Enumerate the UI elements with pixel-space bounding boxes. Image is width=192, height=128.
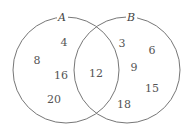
- region-intersection: 12: [89, 67, 103, 80]
- element-6: 6: [149, 44, 156, 57]
- element-16: 16: [54, 69, 68, 82]
- element-15: 15: [145, 82, 159, 95]
- element-4: 4: [61, 36, 68, 49]
- element-3: 3: [119, 37, 126, 50]
- region-a-only: 4 8 16 20: [34, 36, 69, 106]
- element-9: 9: [131, 61, 138, 74]
- set-a-label: A: [57, 11, 66, 24]
- set-b-label: B: [126, 11, 135, 24]
- element-18: 18: [117, 98, 131, 111]
- element-12: 12: [89, 67, 103, 80]
- element-8: 8: [34, 54, 41, 67]
- region-b-only: 3 6 9 15 18: [117, 37, 159, 111]
- venn-diagram: A B 4 8 16 20 12 3 6 9 15 18: [0, 0, 192, 128]
- element-20: 20: [47, 93, 61, 106]
